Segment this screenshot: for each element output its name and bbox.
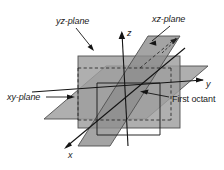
label-yz-plane: yz-plane [56, 16, 89, 27]
label-axis-y: y [206, 79, 211, 89]
label-axis-z: z [127, 28, 132, 38]
coordinate-axes-diagram [0, 0, 224, 170]
coordinate-system-figure: yz-plane xz-plane xy-plane First octant … [0, 0, 224, 170]
leader-yz-arrowhead [88, 44, 95, 51]
leader-yz [76, 28, 92, 48]
label-xy-plane: xy-plane [7, 92, 40, 103]
label-first-octant: First octant [172, 94, 220, 105]
label-xz-plane: xz-plane [152, 14, 185, 25]
axis-y-arrowhead [196, 78, 204, 83]
label-axis-x: x [68, 150, 73, 160]
axis-z-arrowhead [119, 31, 126, 39]
